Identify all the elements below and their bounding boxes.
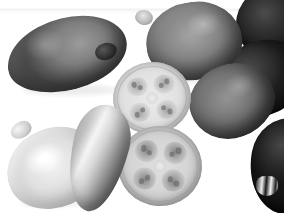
- slice-core: [125, 72, 179, 123]
- central-pith: [145, 91, 158, 105]
- seed-lobe: [153, 73, 176, 94]
- seed-lobe: [128, 101, 151, 122]
- seed-lobe: [133, 167, 157, 190]
- seed-lobe: [126, 76, 149, 97]
- seed-lobe: [162, 169, 186, 192]
- feijoa-photograph: [0, 0, 284, 213]
- seed-lobe: [155, 98, 178, 119]
- calyx-icon: [256, 176, 278, 196]
- seed-lobe: [163, 142, 187, 165]
- slice-core: [131, 139, 188, 194]
- seed-lobe: [134, 140, 158, 163]
